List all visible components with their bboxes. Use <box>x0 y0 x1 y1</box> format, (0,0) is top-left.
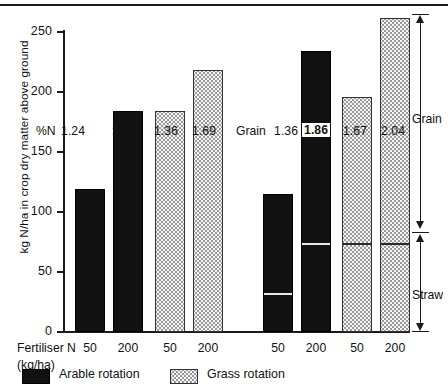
y-tick-mark-250 <box>57 31 64 33</box>
x-tick-label-2: 200 <box>118 341 138 355</box>
x-axis-title-line1: Fertiliser N <box>17 341 76 355</box>
bar-grass-200-right <box>380 18 410 332</box>
bar-arable-50-left <box>75 189 105 332</box>
bar-grass-200-left <box>193 70 223 332</box>
x-tick-label-1: 50 <box>83 341 97 355</box>
y-axis-line <box>63 30 65 333</box>
bar-arable-200-left <box>113 111 143 332</box>
y-tick-mark-0 <box>57 331 64 333</box>
straw-bracket-bottom-cap <box>412 331 429 332</box>
value-label-arable-50-right: 1.36 <box>274 124 298 138</box>
y-axis-title: kg N/ha in crop dry matter above ground <box>17 22 31 272</box>
value-label-arable-50-left: 1.24 <box>61 124 85 138</box>
legend-label-grass: Grass rotation <box>207 367 285 381</box>
legend-swatch-arable <box>22 369 50 384</box>
straw-grain-divider <box>264 293 292 295</box>
value-label-arable-200-right: 1.86 <box>301 122 331 138</box>
y-tick-mark-150 <box>57 151 64 153</box>
straw-bracket-line <box>420 238 421 326</box>
value-label-grass-50-right: 1.67 <box>343 124 367 138</box>
straw-grain-divider <box>381 243 409 245</box>
x-tick-label-4: 200 <box>198 341 218 355</box>
x-tick-label-3: 50 <box>163 341 177 355</box>
x-tick-label-5: 50 <box>271 341 285 355</box>
x-tick-label-7: 50 <box>350 341 364 355</box>
straw-grain-divider <box>343 243 371 245</box>
straw-bracket-label: Straw <box>412 288 443 302</box>
legend-swatch-grass <box>170 369 198 384</box>
bar-grass-50-left <box>155 111 185 332</box>
left-group-tag: %N <box>36 124 56 138</box>
y-tick-mark-200 <box>57 91 64 93</box>
right-group-tag: Grain <box>236 124 266 138</box>
chart-figure: 250 200 150 100 50 0 kg N/ha in crop dry… <box>0 0 448 391</box>
grain-bracket-label: Grain <box>412 112 442 126</box>
y-tick-mark-50 <box>57 271 64 273</box>
value-label-grass-50-left: 1.36 <box>154 124 178 138</box>
top-rule <box>0 4 448 6</box>
y-tick-mark-100 <box>57 211 64 213</box>
value-label-grass-200-right: 2.04 <box>381 124 405 138</box>
bar-arable-50-right <box>263 194 293 332</box>
y-tick-label-0: 0 <box>6 324 52 338</box>
straw-bracket-bottom-arrow <box>416 323 424 331</box>
bar-arable-200-right <box>301 51 331 332</box>
x-tick-label-6: 200 <box>306 341 326 355</box>
x-tick-label-8: 200 <box>385 341 405 355</box>
grain-bracket-bottom-arrow <box>416 221 424 229</box>
straw-grain-divider <box>302 243 330 245</box>
legend-label-arable: Arable rotation <box>59 367 140 381</box>
value-label-arable-200-left: 1.85 <box>112 124 136 138</box>
value-label-grass-200-left: 1.69 <box>192 124 216 138</box>
